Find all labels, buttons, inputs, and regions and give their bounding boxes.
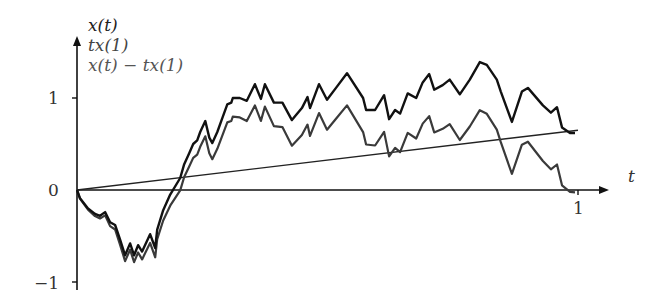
x-tick-1: 1 — [573, 198, 584, 218]
legend-x-t: x(t) — [88, 15, 118, 35]
x-axis-arrow-icon — [599, 186, 609, 194]
y-tick-1: 1 — [48, 88, 59, 108]
legend-bridge: x(t) − tx(1) — [88, 55, 183, 75]
x-axis-label: t — [628, 166, 635, 186]
x-axis — [77, 186, 609, 195]
legend-t-x1: tx(1) — [88, 35, 129, 55]
series-t-x1 — [77, 130, 578, 190]
y-tick-neg1: −1 — [34, 273, 59, 293]
brownian-bridge-chart: 1 0 −1 1 t x(t) tx(1) x(t) − tx(1) — [0, 0, 666, 308]
y-tick-0: 0 — [48, 180, 59, 200]
series-x-t — [77, 62, 575, 255]
y-axis-arrow-icon — [73, 36, 81, 46]
y-axis — [72, 36, 81, 290]
